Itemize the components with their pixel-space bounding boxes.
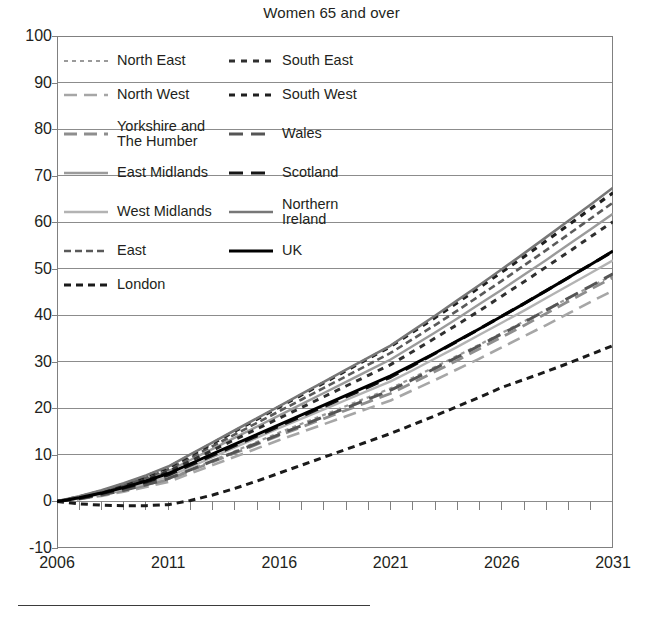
x-tick-label: 2011: [151, 554, 185, 572]
chart-page: Women 65 and over 1009080706050403020100…: [0, 0, 663, 619]
chart-title: Women 65 and over: [0, 4, 663, 21]
legend-item[interactable]: London: [64, 268, 229, 302]
legend-item-label: East: [117, 243, 146, 258]
legend-item-label: UK: [282, 243, 302, 258]
y-axis: 1009080706050403020100-10: [0, 36, 52, 548]
legend-item[interactable]: Wales: [229, 117, 394, 151]
legend-item-label: Yorkshire and The Humber: [117, 119, 205, 149]
legend-item[interactable]: West Midlands: [64, 195, 229, 229]
legend-item[interactable]: North East: [64, 44, 229, 78]
legend-item-label: London: [117, 277, 165, 292]
legend-item[interactable]: Yorkshire and The Humber: [64, 112, 229, 156]
footer-divider-rule: [18, 605, 370, 606]
legend-item[interactable]: North West: [64, 78, 229, 112]
legend-item[interactable]: South East: [229, 44, 394, 78]
legend-item-label: East Midlands: [117, 165, 208, 180]
legend-item-label: South East: [282, 53, 353, 68]
y-tick-label: 100: [6, 28, 52, 44]
legend-item[interactable]: UK: [229, 234, 394, 268]
chart-legend: North EastSouth EastNorth WestSouth West…: [64, 44, 394, 302]
y-tick-label: 60: [6, 214, 52, 230]
y-tick-label: 40: [6, 307, 52, 323]
y-tick-label: 80: [6, 121, 52, 137]
y-tick-label: 30: [6, 354, 52, 370]
legend-line-swatch: [64, 278, 108, 292]
y-tick-label: 20: [6, 400, 52, 416]
legend-item[interactable]: East: [64, 234, 229, 268]
x-tick-label: 2021: [373, 554, 409, 572]
y-tick-label: 0: [6, 493, 52, 509]
legend-item-label: Wales: [282, 126, 322, 141]
x-tick-label: 2016: [262, 554, 298, 572]
y-tick-mark: [52, 548, 58, 549]
legend-line-swatch: [64, 166, 108, 180]
y-tick-label: 90: [6, 75, 52, 91]
x-tick-label: 2031: [595, 554, 631, 572]
legend-line-swatch: [64, 244, 108, 258]
legend-line-swatch: [229, 88, 273, 102]
legend-line-swatch: [64, 127, 108, 141]
y-tick-label: 10: [6, 447, 52, 463]
legend-line-swatch: [229, 244, 273, 258]
series-line-yorkshire-and-the-humber: [57, 278, 613, 502]
legend-item-label: Northern Ireland: [282, 197, 338, 227]
legend-line-swatch: [64, 88, 108, 102]
x-tick-label: 2026: [484, 554, 520, 572]
legend-line-swatch: [229, 205, 273, 219]
legend-item-label: North West: [117, 87, 189, 102]
legend-line-swatch: [64, 54, 108, 68]
legend-line-swatch: [229, 166, 273, 180]
legend-item[interactable]: East Midlands: [64, 156, 229, 190]
legend-item-label: Scotland: [282, 165, 338, 180]
legend-item-label: North East: [117, 53, 186, 68]
legend-line-swatch: [229, 127, 273, 141]
legend-item[interactable]: South West: [229, 78, 394, 112]
legend-line-swatch: [229, 54, 273, 68]
legend-item[interactable]: Northern Ireland: [229, 190, 394, 234]
legend-item-label: West Midlands: [117, 204, 212, 219]
x-axis: 200620112016202120262031: [57, 554, 613, 580]
legend-line-swatch: [64, 205, 108, 219]
legend-item-label: South West: [282, 87, 357, 102]
x-tick-label: 2006: [39, 554, 75, 572]
legend-item[interactable]: Scotland: [229, 156, 394, 190]
y-tick-label: 50: [6, 261, 52, 277]
y-tick-label: 70: [6, 168, 52, 184]
